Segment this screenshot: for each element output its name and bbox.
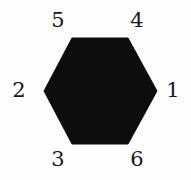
hexagon-label-2: 2 bbox=[8, 80, 30, 101]
hexagon-label-1: 1 bbox=[162, 80, 184, 101]
hexagon-shape bbox=[44, 38, 157, 144]
hexagon-label-6: 6 bbox=[126, 149, 148, 170]
hexagon-label-4: 4 bbox=[126, 10, 148, 31]
diagram-canvas: 5 4 2 1 3 6 bbox=[0, 0, 191, 180]
hexagon-label-5: 5 bbox=[47, 10, 69, 31]
hexagon-label-3: 3 bbox=[47, 149, 69, 170]
